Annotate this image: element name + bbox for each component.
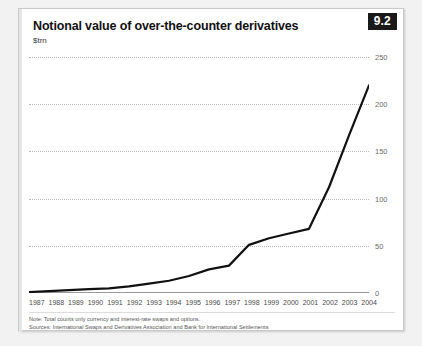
x-axis-tick-1988: 1988 bbox=[49, 299, 65, 306]
x-axis-tick-1999: 1999 bbox=[264, 299, 280, 306]
figure-number-badge: 9.2 bbox=[368, 13, 397, 30]
chart-note: Note: Total counts only currency and int… bbox=[29, 315, 395, 323]
x-axis-tick-labels: 1987198819891990199119921993199419951996… bbox=[29, 299, 377, 306]
x-axis-tick-1997: 1997 bbox=[224, 299, 240, 306]
y-axis-tick-0: 0 bbox=[375, 289, 379, 298]
x-axis-tick-1995: 1995 bbox=[185, 299, 201, 306]
chart-subtitle: $trn bbox=[33, 36, 47, 45]
chart-notes: Note: Total counts only currency and int… bbox=[29, 315, 395, 331]
chart-plot-area: 050100150200250 bbox=[29, 57, 369, 293]
footer-divider bbox=[29, 312, 395, 313]
left-accent-rule bbox=[19, 9, 22, 332]
x-axis-tick-1991: 1991 bbox=[107, 299, 123, 306]
x-axis-tick-1998: 1998 bbox=[244, 299, 260, 306]
x-axis-tick-1996: 1996 bbox=[205, 299, 221, 306]
page-title: Notional value of over-the-counter deriv… bbox=[33, 19, 298, 33]
y-axis-tick-200: 200 bbox=[375, 100, 388, 109]
x-axis-tick-2002: 2002 bbox=[322, 299, 338, 306]
x-axis-tick-1987: 1987 bbox=[29, 299, 45, 306]
x-axis-tick-1992: 1992 bbox=[127, 299, 143, 306]
x-axis-tick-2003: 2003 bbox=[342, 299, 358, 306]
chart-card: 9.2 Notional value of over-the-counter d… bbox=[18, 8, 404, 331]
x-axis-tick-1989: 1989 bbox=[68, 299, 84, 306]
y-axis-tick-50: 50 bbox=[375, 241, 383, 250]
x-axis-tick-2000: 2000 bbox=[283, 299, 299, 306]
x-axis-tick-1994: 1994 bbox=[166, 299, 182, 306]
data-line-series bbox=[29, 57, 369, 293]
x-axis-tick-2004: 2004 bbox=[361, 299, 377, 306]
x-axis-tick-1990: 1990 bbox=[88, 299, 104, 306]
x-axis-tick-2001: 2001 bbox=[303, 299, 319, 306]
x-axis-tick-1993: 1993 bbox=[146, 299, 162, 306]
chart-sources: Sources: International Swaps and Derivat… bbox=[29, 323, 395, 331]
y-axis-tick-150: 150 bbox=[375, 147, 388, 156]
y-axis-tick-100: 100 bbox=[375, 194, 388, 203]
y-axis-tick-250: 250 bbox=[375, 53, 388, 62]
